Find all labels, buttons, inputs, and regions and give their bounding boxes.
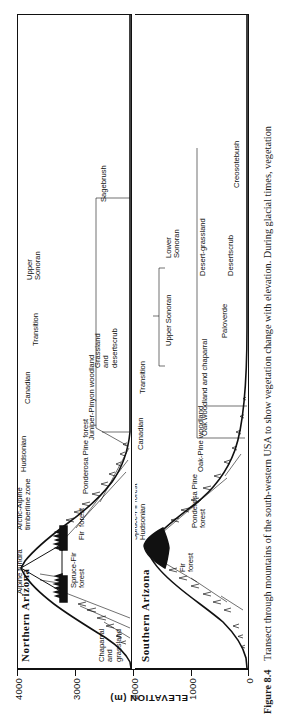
zone-sep-s-6: [225, 454, 241, 476]
label-spruce-fir-hudsonian-s: Spruce-Fir forest Hudsonian: [135, 483, 148, 540]
figure-caption: Figure 8.4 Transect through mountains of…: [261, 8, 274, 714]
label-canadian-n: Canadian: [24, 371, 32, 404]
label-hudsonian-n: Hudsonian: [20, 436, 28, 472]
figure-number: Figure 8.4: [262, 670, 273, 714]
axis-title-elevation: ELEVATION (m): [110, 693, 188, 704]
label-arctic-alpine-timberline: Arctic-Alpine timberline zone: [17, 479, 33, 531]
axis-ticklabel-1000: 1000: [187, 678, 198, 714]
zone-sep-s-5: [221, 596, 243, 610]
panel-southern-arizona: Spruce-Fir forest Hudsonian Fir forest C…: [135, 14, 249, 669]
label-upper-sonoran-n: Upper Sonoran: [26, 251, 43, 280]
label-grassland-desertscrub: Grassland and desertscrub: [94, 328, 119, 368]
label-oak-woodland-chaparral: Oak woodland and chaparral: [201, 339, 209, 436]
axis-tick-2000: [133, 670, 134, 676]
label-sagebrush: Sagebrush: [100, 165, 108, 202]
label-paloverde: Paloverde: [221, 304, 229, 338]
label-transition-n: Transition: [32, 313, 40, 346]
label-creosotebush: Creosotebush: [233, 141, 241, 188]
panel-northern-arizona: Alpine tundra Arctic-Alpine timberline z…: [17, 14, 132, 669]
southern-profile-line: [148, 14, 247, 668]
panel-title-northern-arizona: Northern Arizona: [19, 568, 31, 662]
zone-sep-n-2: [58, 472, 126, 546]
label-desert-grassland: Desert-grassland: [199, 218, 207, 276]
axis-ticklabel-0: 0: [244, 678, 255, 714]
label-transition-s: Transition: [139, 361, 147, 394]
axis-ticklabel-4000: 4000: [13, 678, 24, 714]
axis-tick-0: [248, 670, 249, 676]
axis-tick-3000: [75, 670, 76, 676]
zone-sep-n-sagebrush: [96, 198, 130, 446]
label-chaparral-grassland: Chaparral and grassland: [98, 629, 123, 662]
zone-sep-n-3: [80, 606, 130, 628]
label-fir-forest-s: Fir forest: [179, 553, 196, 572]
axis-tick-4000: [17, 670, 18, 676]
label-desertscrub: Desertscrub: [227, 235, 235, 276]
axis-tick-1000: [191, 670, 192, 676]
figure-8-4: 4000 3000 2000 1000 0 ELEVATION (m): [13, 0, 294, 722]
panel-title-southern-arizona: Southern Arizona: [139, 569, 151, 662]
zone-sep-s-3: [191, 578, 227, 602]
label-spruce-fir-n: Spruce-Fir forest: [70, 553, 87, 588]
northern-forest-dense: [55, 526, 67, 602]
axis-ticklabel-3000: 3000: [71, 678, 82, 714]
label-canadian-s: Canadian: [137, 417, 145, 450]
figure-caption-text: Transect through mountains of the south-…: [262, 126, 273, 661]
label-lower-sonoran-s: Lower Sonoran: [165, 229, 182, 258]
label-upper-sonoran-s: Upper Sonoran: [165, 294, 173, 346]
elevation-axis-line: [17, 669, 249, 670]
label-ponderosa-s: Ponderosa Pine forest: [191, 474, 208, 528]
label-fir-forest-n: Fir forest: [78, 508, 86, 540]
rotated-page-canvas: 4000 3000 2000 1000 0 ELEVATION (m): [13, 0, 294, 722]
